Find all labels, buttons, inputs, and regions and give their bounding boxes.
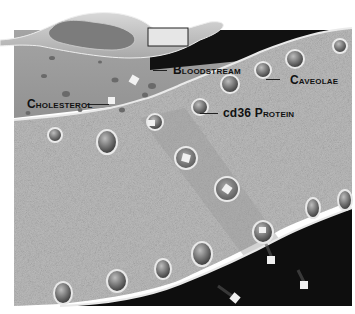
label-cholesterol: Cholesterol	[27, 98, 93, 110]
cholesterol-particle	[108, 97, 115, 104]
diagram: Bloodstream Caveolae Cholesterol cd36 Pr…	[0, 0, 355, 314]
bloodstream-leader	[153, 70, 167, 71]
diagram-illustration	[0, 0, 355, 314]
cholesterol-in-caveola	[259, 227, 266, 233]
caveolae-leader	[266, 79, 280, 80]
label-caveolae: Caveolae	[290, 74, 338, 86]
cd36-leader	[200, 113, 218, 114]
label-bloodstream: Bloodstream	[173, 64, 241, 76]
cholesterol-in-caveola	[148, 120, 155, 126]
label-cd36-protein: cd36 Protein	[223, 107, 294, 119]
vessel-cutaway	[148, 28, 188, 46]
